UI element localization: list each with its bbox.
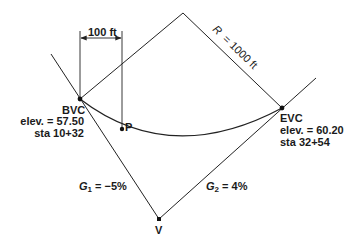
evc-label: EVC [280, 112, 303, 124]
evc-elevation: elev. = 60.20 [280, 124, 344, 136]
p-label: P [125, 121, 132, 133]
grade-g1-label: G1 = −5% [79, 180, 127, 192]
bvc-station: sta 10+32 [14, 127, 84, 139]
radius-line-right [183, 13, 282, 108]
vertical-curve [80, 99, 282, 136]
v-point [157, 217, 161, 221]
p-point [120, 127, 124, 131]
g2-symbol: G [206, 180, 215, 192]
v-label: V [155, 224, 162, 236]
dimension-label: 100 ft [88, 26, 117, 38]
radius-symbol: R [211, 23, 225, 37]
radius-value: = 1000 ft [221, 32, 260, 71]
bvc-point [78, 97, 83, 102]
g1-symbol: G [79, 180, 88, 192]
bvc-elevation: elev. = 57.50 [14, 115, 84, 127]
g2-value: = 4% [222, 180, 247, 192]
g2-subscript: 2 [215, 185, 219, 194]
g1-subscript: 1 [88, 185, 92, 194]
g1-value: = −5% [95, 180, 127, 192]
grade-line-g2 [159, 78, 316, 219]
grade-g2-label: G2 = 4% [206, 180, 247, 192]
evc-point [280, 106, 285, 111]
evc-station: sta 32+54 [280, 136, 330, 148]
